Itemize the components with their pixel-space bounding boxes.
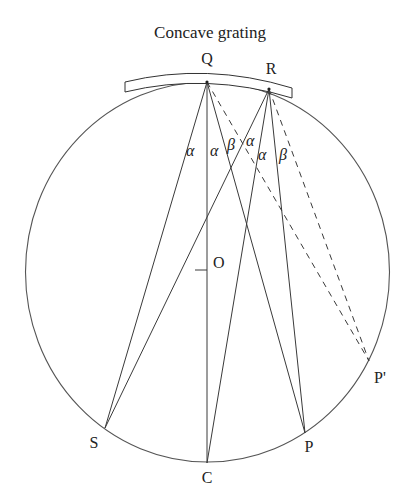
ray-R-P bbox=[269, 89, 305, 433]
angle-alpha-4: α bbox=[258, 146, 267, 163]
label-C: C bbox=[202, 469, 213, 486]
label-R: R bbox=[266, 60, 277, 77]
rowland-circle-diagram: Concave grating Q R O S C P P' α α β α α… bbox=[0, 0, 410, 503]
angle-alpha-3: α bbox=[246, 132, 255, 149]
label-O: O bbox=[213, 254, 225, 271]
angle-beta-1: β bbox=[226, 136, 235, 154]
label-S: S bbox=[90, 434, 99, 451]
ray-R-S bbox=[105, 89, 269, 428]
label-Q: Q bbox=[201, 50, 213, 67]
angle-alpha-1: α bbox=[186, 142, 195, 159]
figure-title: Concave grating bbox=[154, 23, 266, 42]
vertex-Q-dot bbox=[205, 80, 208, 83]
label-P-prime: P' bbox=[374, 369, 386, 386]
vertex-R-dot bbox=[267, 87, 270, 90]
label-P: P bbox=[305, 438, 314, 455]
ray-Q-S bbox=[105, 82, 207, 428]
ray-R-Pprime-dashed bbox=[269, 89, 369, 361]
angle-beta-2: β bbox=[278, 146, 287, 164]
angle-alpha-2: α bbox=[210, 142, 219, 159]
